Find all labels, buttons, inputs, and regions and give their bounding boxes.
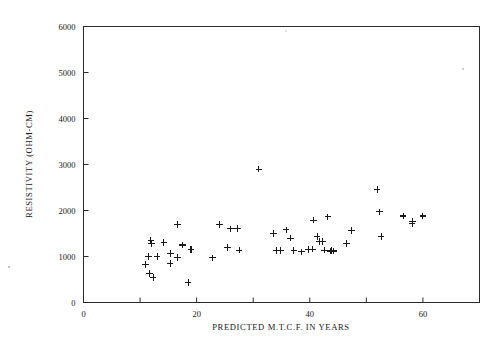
y-tick-label: 6000 bbox=[59, 22, 76, 32]
y-tick-label: 4000 bbox=[59, 114, 76, 124]
data-point bbox=[270, 230, 277, 237]
data-point bbox=[321, 247, 328, 254]
data-point bbox=[146, 270, 153, 277]
data-point bbox=[148, 240, 155, 247]
data-point bbox=[319, 238, 326, 245]
x-tick-label: 20 bbox=[192, 309, 201, 319]
data-point bbox=[161, 239, 168, 246]
data-point bbox=[236, 247, 243, 254]
data-point bbox=[234, 225, 241, 232]
y-axis-ticks bbox=[84, 27, 89, 303]
data-point bbox=[185, 279, 192, 286]
data-point bbox=[348, 227, 355, 234]
data-point bbox=[256, 166, 263, 173]
plot-frame bbox=[84, 27, 480, 303]
data-point bbox=[420, 213, 427, 220]
paper-specks bbox=[8, 30, 464, 268]
data-point bbox=[325, 214, 332, 221]
data-point bbox=[287, 235, 294, 242]
data-point bbox=[378, 233, 385, 240]
data-point bbox=[278, 247, 285, 254]
data-point bbox=[145, 253, 152, 260]
x-tick-label: 0 bbox=[81, 309, 85, 319]
chart-canvas: 0204060 0100020003000400050006000 PREDIC… bbox=[0, 0, 500, 352]
data-point bbox=[209, 255, 216, 262]
data-point bbox=[142, 261, 149, 268]
y-tick-label: 3000 bbox=[59, 160, 76, 170]
data-point bbox=[150, 274, 157, 281]
y-tick-label: 1000 bbox=[59, 252, 76, 262]
data-point bbox=[374, 186, 381, 193]
y-axis-label: RESISTIVITY (OHM-CM) bbox=[24, 110, 34, 218]
x-axis-label: PREDICTED M.T.C.F. IN YEARS bbox=[212, 322, 350, 332]
data-point bbox=[167, 260, 174, 267]
data-point bbox=[298, 249, 305, 256]
data-point bbox=[309, 246, 316, 253]
x-axis-tick-labels: 0204060 bbox=[81, 309, 427, 319]
y-tick-label: 2000 bbox=[59, 206, 76, 216]
data-point bbox=[224, 244, 231, 251]
data-point bbox=[167, 250, 174, 257]
data-point bbox=[400, 213, 407, 220]
data-point bbox=[227, 226, 234, 233]
data-point bbox=[291, 247, 298, 254]
data-point bbox=[179, 242, 186, 249]
data-point bbox=[154, 253, 161, 260]
data-point bbox=[174, 254, 181, 261]
scatter-chart-figure: 0204060 0100020003000400050006000 PREDIC… bbox=[0, 0, 500, 352]
x-tick-label: 40 bbox=[306, 309, 315, 319]
data-point bbox=[376, 209, 383, 216]
data-point bbox=[188, 246, 195, 253]
data-point bbox=[310, 217, 317, 224]
data-point bbox=[216, 221, 223, 228]
data-point bbox=[174, 221, 181, 228]
scatter-markers bbox=[142, 166, 426, 286]
data-point bbox=[330, 248, 337, 255]
y-axis-tick-labels: 0100020003000400050006000 bbox=[59, 22, 76, 308]
y-tick-label: 5000 bbox=[59, 68, 76, 78]
data-point bbox=[148, 237, 155, 244]
data-point bbox=[343, 240, 350, 247]
y-tick-label: 0 bbox=[71, 298, 75, 308]
x-tick-label: 60 bbox=[419, 309, 428, 319]
data-point bbox=[283, 227, 290, 234]
